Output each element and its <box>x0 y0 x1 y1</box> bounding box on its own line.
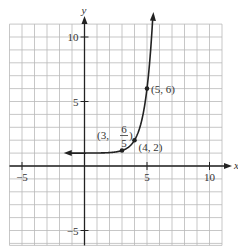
point-label-5-6: (5, 6) <box>151 83 175 96</box>
x-axis-label: x <box>233 159 238 171</box>
x-tick-label: 5 <box>144 171 150 183</box>
x-axis-arrow-icon <box>224 163 232 169</box>
point-label-4-2: (4, 2) <box>139 141 163 154</box>
x-tick-label: 10 <box>204 171 216 183</box>
svg-text:6: 6 <box>121 123 127 135</box>
y-tick-label: 5 <box>73 96 79 108</box>
y-tick-label: −5 <box>67 225 79 237</box>
y-tick-label: 10 <box>68 31 80 43</box>
exponential-graph: xy −5510105−5 (3, 65)(4, 2)(5, 6) <box>0 0 238 251</box>
data-point <box>120 148 125 153</box>
function-curve <box>71 20 153 153</box>
x-tick-label: −5 <box>16 171 28 183</box>
data-point <box>145 86 150 91</box>
tick-marks: −5510105−5 <box>16 31 215 237</box>
curve-top-arrow-icon <box>150 12 156 21</box>
data-point <box>132 138 137 143</box>
svg-text:(3,: (3, <box>97 129 109 142</box>
curve-left-arrow-icon <box>64 150 72 156</box>
grid-lines <box>10 24 223 245</box>
svg-text:): ) <box>129 129 133 142</box>
y-axis-label: y <box>81 4 87 16</box>
point-label-3-6-5: (3, 65) <box>97 123 133 149</box>
y-axis-arrow-icon <box>82 16 88 24</box>
labeled-points: (3, 65)(4, 2)(5, 6) <box>64 12 175 156</box>
svg-text:5: 5 <box>121 137 127 149</box>
